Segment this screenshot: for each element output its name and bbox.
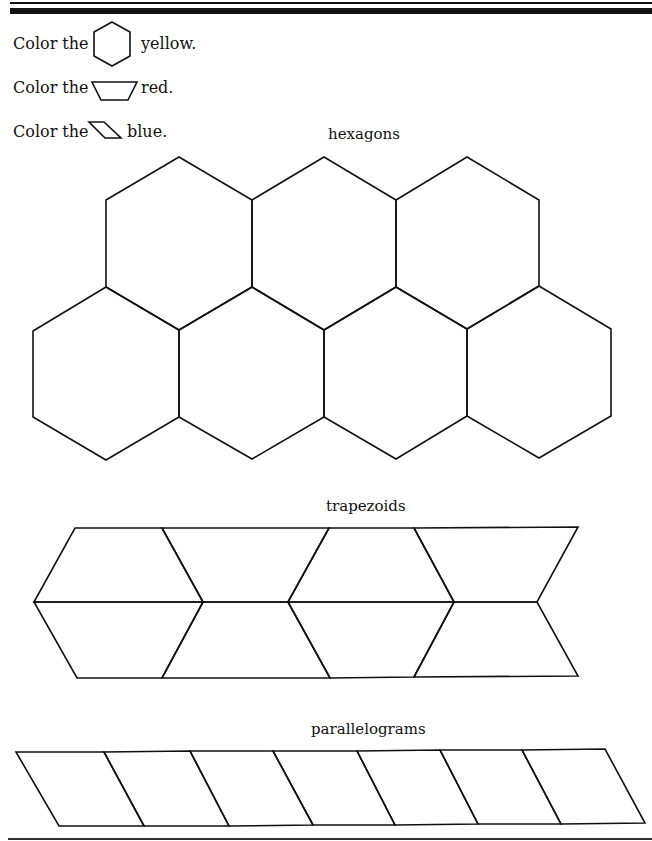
trapezoid-icon	[92, 82, 137, 100]
trapezoid-shape[interactable]	[414, 602, 578, 677]
shapes-canvas	[0, 0, 652, 841]
parallelogram-group	[16, 749, 645, 826]
hexagon-shape[interactable]	[467, 286, 611, 458]
trapezoid-shape[interactable]	[288, 528, 454, 602]
hexagon-shape[interactable]	[106, 157, 252, 330]
parallelogram-shape[interactable]	[190, 751, 313, 826]
trapezoid-shape[interactable]	[34, 528, 203, 602]
hexagon-shape[interactable]	[179, 287, 324, 459]
trapezoid-shape[interactable]	[34, 602, 203, 678]
trapezoid-shape[interactable]	[288, 602, 454, 678]
hexagon-shape[interactable]	[324, 287, 467, 459]
trapezoid-shape[interactable]	[162, 528, 329, 602]
hexagon-group	[33, 157, 611, 460]
parallelogram-shape[interactable]	[440, 750, 561, 824]
parallelogram-icon	[89, 122, 121, 138]
trapezoid-shape[interactable]	[414, 527, 578, 602]
parallelogram-shape[interactable]	[522, 749, 645, 824]
hexagon-shape[interactable]	[33, 287, 179, 460]
footer-rule	[8, 838, 652, 840]
trapezoid-group	[34, 527, 578, 678]
hexagon-shape[interactable]	[396, 157, 539, 329]
hexagon-shape[interactable]	[252, 157, 396, 330]
trapezoid-shape[interactable]	[162, 602, 330, 678]
hexagon-icon	[94, 22, 130, 66]
